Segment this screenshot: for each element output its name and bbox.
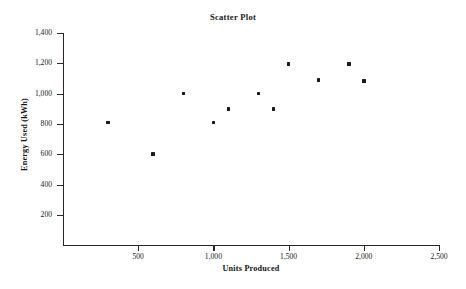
data-point	[151, 152, 155, 156]
x-axis-tick-label: 2,000	[339, 252, 389, 261]
x-axis-title: Units Produced	[63, 264, 439, 273]
x-axis-tick	[364, 245, 365, 251]
data-point	[287, 62, 291, 66]
data-point	[362, 79, 366, 83]
x-axis-tick	[289, 245, 290, 251]
x-axis-tick	[439, 245, 440, 251]
data-point	[347, 62, 351, 66]
x-axis-tick	[213, 245, 214, 251]
x-axis-tick-label: 1,500	[264, 252, 314, 261]
x-axis-tick	[138, 245, 139, 251]
data-point	[272, 107, 276, 111]
x-axis-tick-label: 1,000	[188, 252, 238, 261]
scatter-plot-figure: Scatter Plot 2004006008001,0001,2001,400…	[0, 0, 466, 289]
data-point	[212, 121, 216, 125]
data-point	[106, 121, 110, 125]
data-point	[257, 92, 261, 96]
x-axis-tick-label: 500	[113, 252, 163, 261]
data-point	[317, 78, 321, 82]
x-axis-tick-label: 2,500	[414, 252, 464, 261]
plot-area	[63, 33, 439, 245]
data-point	[182, 92, 186, 96]
chart-title: Scatter Plot	[0, 12, 466, 22]
data-point	[227, 107, 231, 111]
y-axis-title: Energy Used (kWh)	[20, 45, 29, 225]
y-axis-tick-label: 1,400	[0, 28, 52, 37]
